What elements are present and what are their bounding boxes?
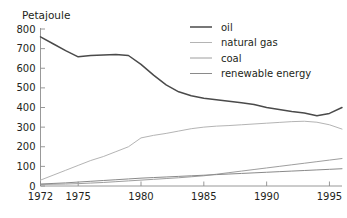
chart-series-group [41,37,343,185]
y-tick-label: 500 [16,82,35,93]
y-tick-label: 100 [16,161,35,172]
chart-legend: oilnatural gascoalrenewable energy [190,22,311,80]
y-axis-tick-labels: 0100200300400500600700800 [16,24,35,192]
y-axis-tick-marks [41,29,46,186]
x-tick-label: 1975 [65,191,90,202]
y-tick-label: 0 [29,181,35,192]
legend-label-oil: oil [221,22,233,33]
legend-label-renewable-energy: renewable energy [221,68,311,79]
legend-label-coal: coal [221,53,242,64]
y-tick-label: 800 [16,24,35,35]
y-tick-label: 400 [16,102,35,113]
x-tick-label: 1980 [128,191,153,202]
x-tick-label: 1995 [317,191,342,202]
energy-consumption-line-chart: Petajoule 0100200300400500600700800 1972… [0,0,347,218]
x-tick-label: 1985 [191,191,216,202]
y-axis-title: Petajoule [22,9,70,21]
x-axis-tick-labels: 197219751980198519901995 [28,191,342,202]
x-tick-label: 1972 [28,191,53,202]
x-tick-label: 1990 [254,191,279,202]
y-tick-label: 600 [16,63,35,74]
y-tick-label: 700 [16,43,35,54]
legend-label-natural-gas: natural gas [221,37,278,48]
y-tick-label: 300 [16,122,35,133]
chart-canvas: Petajoule 0100200300400500600700800 1972… [0,0,347,218]
y-tick-label: 200 [16,141,35,152]
